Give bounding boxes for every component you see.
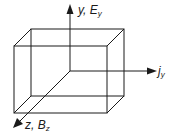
j-axis-label: jy [158,65,165,79]
box-edge [107,29,124,46]
j-arrow-icon [147,68,157,75]
box-edge [107,96,124,113]
y-arrow-icon [67,4,74,14]
box-edge [14,96,31,113]
j-axis-label-sub: y [161,70,165,79]
z-axis-label: z, Bz [25,119,50,133]
y-axis-label-name: y, [78,3,90,17]
z-axis-label-name: z, [25,118,38,132]
box-back-face [31,29,124,96]
z-axis-label-sub: z [46,124,50,133]
z-axis-label-var: B [38,118,46,132]
box-front-face [14,46,107,113]
y-axis-label-var: E [90,3,98,17]
y-axis-label-sub: y [98,9,102,18]
box-edge [14,29,31,46]
arrowheads [13,4,157,128]
y-axis-label: y, Ey [78,4,102,18]
